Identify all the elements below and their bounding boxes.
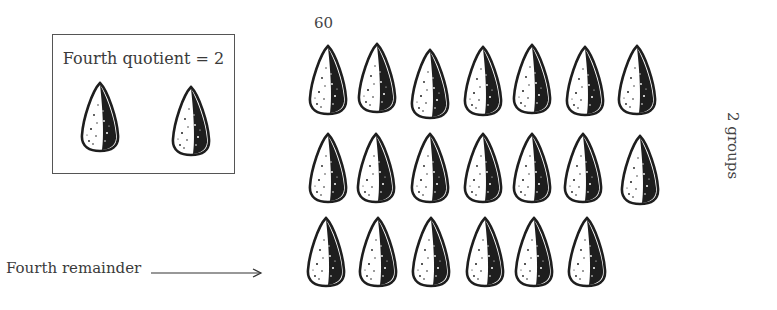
seed-icon: [463, 45, 503, 117]
seed-icon: [567, 216, 607, 288]
quotient-label: Fourth quotient = 2: [53, 49, 234, 68]
seed-icon: [411, 216, 451, 288]
seed-icon: [565, 45, 605, 117]
seed-icon: [512, 43, 552, 115]
seed-icon: [306, 216, 346, 288]
seed-icon: [465, 216, 505, 288]
seed-icon: [563, 132, 603, 204]
groups-label: 2 groups: [724, 112, 742, 179]
seed-icon: [617, 44, 657, 116]
seed-icon: [171, 85, 211, 157]
seed-icon: [463, 132, 503, 204]
quotient-box: Fourth quotient = 2: [52, 34, 235, 174]
seed-icon: [358, 216, 398, 288]
right-arrow-icon: [151, 268, 263, 278]
remainder-label: Fourth remainder: [6, 259, 141, 277]
seed-icon: [308, 44, 348, 116]
seed-icon: [80, 81, 120, 153]
seed-icon: [620, 134, 660, 206]
page-number: 60: [314, 14, 333, 32]
seed-icon: [410, 48, 450, 120]
seed-icon: [308, 132, 348, 204]
seed-icon: [410, 132, 450, 204]
seed-icon: [357, 42, 397, 114]
seed-icon: [514, 216, 554, 288]
seed-icon: [512, 132, 552, 204]
seed-icon: [356, 132, 396, 204]
